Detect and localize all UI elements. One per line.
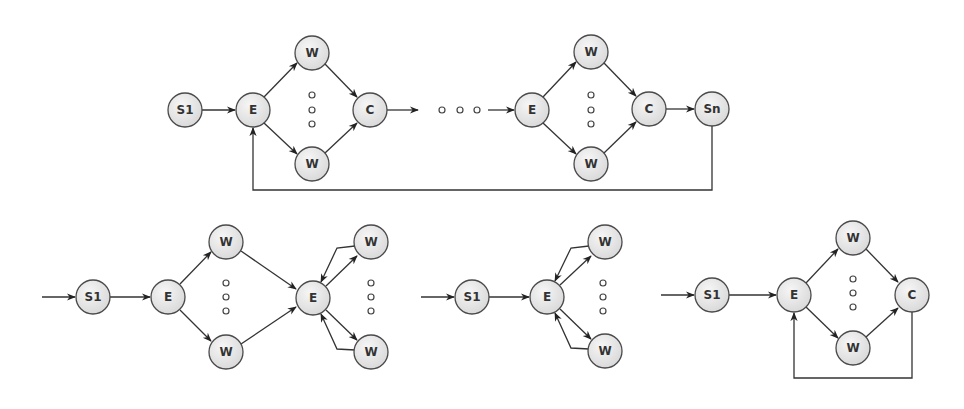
edge-e-w-bottom [264, 123, 297, 154]
node-worker: W [354, 225, 388, 259]
svg-text:S1: S1 [704, 288, 721, 302]
node-collector: C [895, 278, 929, 312]
ellipsis-vertical [850, 276, 856, 310]
ellipsis-vertical [600, 280, 606, 314]
node-worker: W [295, 147, 329, 181]
node-s1: S1 [695, 278, 729, 312]
node-s1: S1 [168, 93, 202, 127]
edge-e-w-top [180, 252, 211, 284]
ellipsis-horizontal [439, 107, 480, 113]
svg-text:W: W [846, 341, 859, 355]
node-s1: S1 [76, 280, 110, 314]
edge-w-bottom-c [866, 308, 898, 337]
node-emitter: E [296, 281, 330, 315]
svg-text:E: E [790, 288, 798, 302]
svg-text:W: W [598, 235, 611, 249]
edge-e-w-bottom [180, 310, 211, 341]
node-worker: W [574, 147, 608, 181]
edge-w-top-c [866, 249, 898, 282]
svg-text:Sn: Sn [703, 102, 720, 116]
ellipsis-vertical [588, 92, 594, 127]
svg-text:W: W [598, 344, 611, 358]
svg-text:C: C [908, 288, 917, 302]
node-sn: Sn [695, 92, 729, 126]
svg-text:E: E [528, 103, 536, 117]
node-worker: W [836, 331, 870, 365]
node-collector: C [353, 93, 387, 127]
node-worker: W [836, 221, 870, 255]
edge-w-bottom-feedback-e [555, 313, 589, 349]
ellipsis-vertical [368, 280, 374, 314]
svg-text:C: C [366, 103, 375, 117]
node-worker: W [209, 225, 243, 259]
svg-text:E: E [543, 290, 551, 304]
node-worker: W [588, 225, 622, 259]
node-emitter: E [530, 280, 564, 314]
workflow-diagram: S1 E W W C E W W C Sn S1 E W [0, 0, 964, 409]
bottom-right-graph: S1 E W W C [661, 221, 929, 378]
node-emitter: E [515, 93, 549, 127]
node-worker: W [588, 334, 622, 368]
svg-text:S1: S1 [85, 290, 102, 304]
svg-text:E: E [249, 103, 257, 117]
svg-text:E: E [164, 290, 172, 304]
svg-text:W: W [364, 345, 377, 359]
edge-w2-top-c [604, 63, 636, 96]
edge-e-w-top [806, 249, 838, 283]
edge-w-top-e2 [241, 251, 296, 289]
node-worker: W [354, 335, 388, 369]
svg-text:W: W [584, 45, 597, 59]
bottom-left-graph: S1 E W W E W W [42, 225, 388, 369]
node-emitter: E [236, 93, 270, 127]
svg-text:W: W [305, 157, 318, 171]
edge-e2-w-bottom [543, 123, 576, 154]
edge-w-bottom-feedback-e2 [321, 314, 355, 350]
edge-e-w-top [264, 63, 297, 97]
top-pipeline-graph: S1 E W W C E W W C Sn [168, 35, 729, 190]
svg-text:W: W [219, 235, 232, 249]
svg-text:E: E [309, 291, 317, 305]
node-worker: W [209, 335, 243, 369]
ellipsis-vertical [223, 280, 229, 314]
node-emitter: E [777, 278, 811, 312]
node-worker: W [574, 35, 608, 69]
svg-text:W: W [584, 157, 597, 171]
node-s1: S1 [455, 280, 489, 314]
edge-w-bottom-e2 [241, 307, 296, 344]
edge-w-top-feedback-e2 [321, 246, 355, 282]
svg-text:W: W [364, 235, 377, 249]
node-worker: W [295, 36, 329, 70]
node-collector: C [632, 92, 666, 126]
svg-text:S1: S1 [177, 103, 194, 117]
bottom-middle-graph: S1 E W W [421, 225, 622, 368]
svg-text:W: W [846, 231, 859, 245]
edge-e-w-bottom [806, 307, 838, 338]
edge-w2-bottom-c [604, 122, 636, 153]
ellipsis-vertical [309, 92, 315, 127]
edge-e2-w-top [543, 62, 576, 97]
edge-w-bottom-c [325, 123, 357, 153]
svg-text:S1: S1 [464, 290, 481, 304]
edge-w-top-c [325, 64, 357, 97]
svg-text:W: W [305, 46, 318, 60]
svg-text:C: C [645, 102, 654, 116]
svg-text:W: W [219, 345, 232, 359]
node-emitter: E [151, 280, 185, 314]
